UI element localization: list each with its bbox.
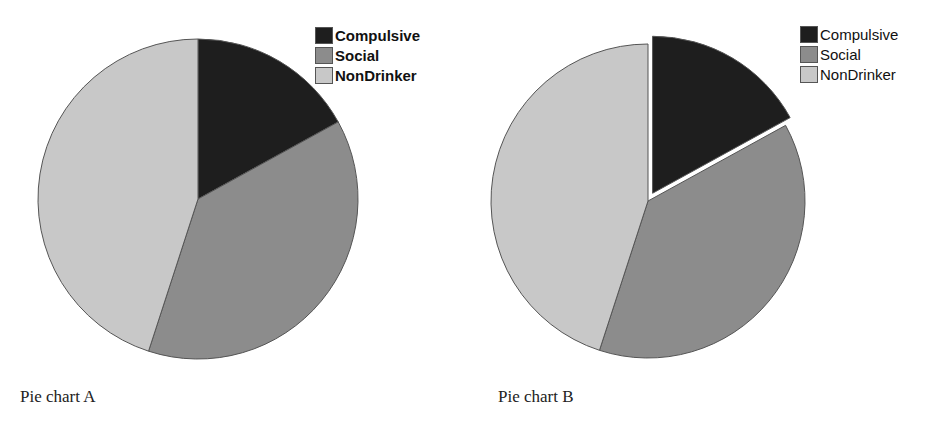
legend-swatch bbox=[800, 66, 818, 83]
caption-a: Pie chart A bbox=[20, 387, 96, 407]
legend-item-compulsive: Compulsive bbox=[315, 25, 420, 45]
legend-item-nondrinker: NonDrinker bbox=[800, 64, 898, 84]
legend-label: NonDrinker bbox=[820, 66, 896, 83]
pie-chart-b-panel: Compulsive Social NonDrinker Pie chart B bbox=[473, 0, 946, 432]
legend-item-compulsive: Compulsive bbox=[800, 24, 898, 44]
legend-item-social: Social bbox=[800, 44, 898, 64]
legend-swatch bbox=[315, 27, 333, 44]
legend-b: Compulsive Social NonDrinker bbox=[800, 24, 898, 84]
legend-label: Social bbox=[820, 46, 861, 63]
legend-a: Compulsive Social NonDrinker bbox=[315, 25, 420, 85]
legend-swatch bbox=[800, 46, 818, 63]
legend-swatch bbox=[315, 67, 333, 84]
legend-label: NonDrinker bbox=[335, 67, 417, 84]
legend-label: Compulsive bbox=[820, 26, 898, 43]
pie-chart-a-panel: Compulsive Social NonDrinker Pie chart A bbox=[0, 0, 473, 432]
legend-label: Social bbox=[335, 47, 379, 64]
legend-label: Compulsive bbox=[335, 27, 420, 44]
caption-b: Pie chart B bbox=[498, 387, 574, 407]
legend-item-nondrinker: NonDrinker bbox=[315, 65, 420, 85]
legend-swatch bbox=[800, 26, 818, 43]
legend-swatch bbox=[315, 47, 333, 64]
legend-item-social: Social bbox=[315, 45, 420, 65]
